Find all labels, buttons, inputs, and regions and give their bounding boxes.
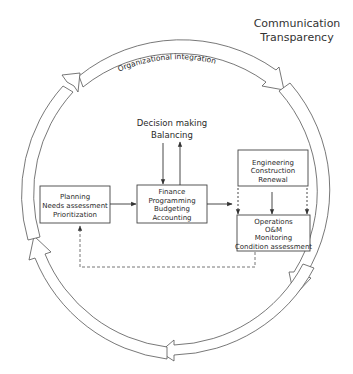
planning-line-1: Planning — [60, 193, 90, 201]
ring-arrow-left — [29, 236, 167, 359]
engineering-line-2: Construction — [251, 167, 296, 175]
planning-line-2: Needs assessment — [42, 202, 108, 210]
feedback-loop-ops-to-planning — [80, 226, 255, 267]
asset-management-cycle-diagram: Organizational integration Communication… — [0, 0, 353, 374]
operations-line-4: Condition assessment — [235, 243, 312, 251]
ring-arrow-top — [79, 40, 284, 90]
decision-line-1: Decision making — [137, 118, 207, 128]
operations-line-1: Operations — [254, 218, 293, 226]
finance-line-1: Finance — [159, 188, 186, 196]
engineering-box: Engineering Construction Renewal — [238, 150, 308, 186]
operations-line-2: O&M — [265, 226, 282, 234]
operations-box: Operations O&M Monitoring Condition asse… — [235, 215, 312, 251]
finance-line-4: Accounting — [152, 214, 191, 222]
planning-box: Planning Needs assessment Prioritization — [40, 186, 110, 223]
finance-line-2: Programming — [148, 197, 195, 205]
operations-line-3: Monitoring — [255, 234, 292, 242]
engineering-line-1: Engineering — [252, 159, 294, 167]
planning-line-3: Prioritization — [53, 211, 97, 219]
title-line-2: Transparency — [259, 31, 334, 44]
decision-line-2: Balancing — [151, 130, 193, 140]
engineering-line-3: Renewal — [258, 176, 288, 184]
ring-arrow-right — [279, 83, 330, 296]
finance-line-3: Budgeting — [154, 205, 190, 213]
finance-box: Finance Programming Budgeting Accounting — [137, 185, 207, 223]
title-line-1: Communication — [254, 17, 341, 30]
